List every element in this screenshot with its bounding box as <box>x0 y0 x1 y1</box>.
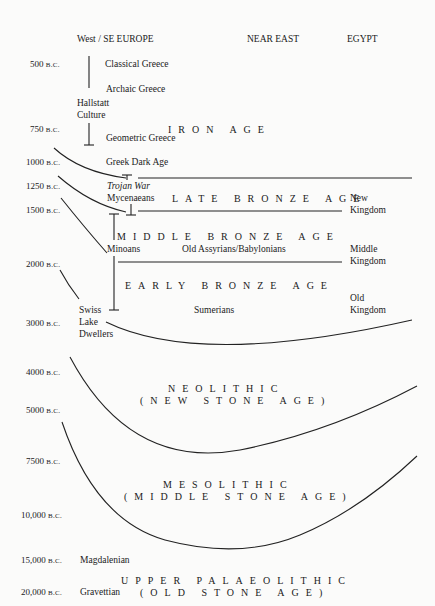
age-label-neolithic-sub: (NEW STONE AGE) <box>140 395 331 406</box>
age-label-middle-bronze: MIDDLE BRONZE AGE <box>117 231 340 242</box>
date-label-750: 750 B.C. <box>30 124 60 136</box>
culture-old-assyrians-babylonians: Old Assyrians/Babylonians <box>182 244 286 255</box>
date-label-10000: 10,000 B.C. <box>21 510 62 522</box>
culture-geometric-greece: Geometric Greece <box>106 133 175 144</box>
culture-magdalenian: Magdalenian <box>80 555 130 566</box>
egypt-middle-kingdom-line1: Middle <box>350 244 377 255</box>
egypt-new-kingdom-line2: Kingdom <box>350 205 386 216</box>
event-trojan-war: Trojan War <box>107 181 150 192</box>
date-label-1500: 1500 B.C. <box>26 205 60 217</box>
age-label-late-bronze: LATE BRONZE AGE <box>172 193 366 204</box>
date-label-4000: 4000 B.C. <box>26 367 60 379</box>
culture-greek-dark-age: Greek Dark Age <box>106 157 168 168</box>
culture-gravettian: Gravettian <box>80 587 120 598</box>
culture-archaic-greece: Archaic Greece <box>106 84 165 95</box>
early-bronze-neolithic-curve <box>106 320 412 345</box>
culture-minoans: Minoans <box>107 244 140 255</box>
age-label-iron: IRON AGE <box>168 124 271 135</box>
date-label-7500: 7500 B.C. <box>26 456 60 468</box>
egypt-old-kingdom-line2: Kingdom <box>350 305 386 316</box>
date-label-20000: 20,000 B.C. <box>21 587 62 599</box>
age-label-neolithic: NEOLITHIC <box>168 383 284 394</box>
date-label-3000: 3000 B.C. <box>26 318 60 330</box>
culture-swiss-line2: Lake <box>79 317 98 328</box>
culture-sumerians: Sumerians <box>194 305 234 316</box>
date-label-2000: 2000 B.C. <box>26 259 60 271</box>
date-label-1000: 1000 B.C. <box>26 157 60 169</box>
date-label-5000: 5000 B.C. <box>26 405 60 417</box>
timeline-lines <box>0 0 435 606</box>
egypt-old-kingdom-line1: Old <box>350 293 364 304</box>
date-label-500: 500 B.C. <box>30 59 60 71</box>
header-near-east: NEAR EAST <box>247 34 299 45</box>
age-label-mesolithic: MESOLITHIC <box>163 479 294 490</box>
egypt-middle-kingdom-line2: Kingdom <box>350 256 386 267</box>
header-west-se-europe: West / SE EUROPE <box>77 34 154 45</box>
date-label-1250: 1250 B.C. <box>26 181 60 193</box>
age-label-mesolithic-sub: (MIDDLE STONE AGE) <box>124 491 353 502</box>
culture-swiss-line1: Swiss <box>79 305 101 316</box>
age-label-early-bronze: EARLY BRONZE AGE <box>125 280 334 291</box>
culture-swiss-line3: Dwellers <box>79 329 113 340</box>
age-label-upper-palaeolithic: UPPER PALAEOLITHIC <box>121 575 352 586</box>
culture-classical-greece: Classical Greece <box>105 59 169 70</box>
culture-hallstatt-line1: Hallstatt <box>77 98 109 109</box>
middle-early-bronze-curve <box>61 198 107 253</box>
header-egypt: EGYPT <box>347 34 378 45</box>
culture-mycenaeans: Mycenaeans <box>107 193 154 204</box>
culture-hallstatt-line2: Culture <box>77 110 106 121</box>
date-label-15000: 15,000 B.C. <box>21 555 62 567</box>
age-label-upper-palaeolithic-sub: (OLD STONE AGE) <box>140 587 329 598</box>
